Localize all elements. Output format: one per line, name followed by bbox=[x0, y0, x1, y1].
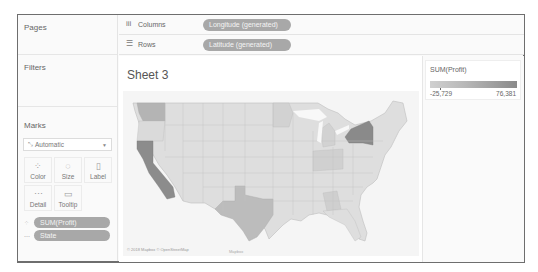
marks-card: Marks ⤡ Automatic ▼ ⁘ Color ◌ Size ▯ Lab… bbox=[18, 107, 117, 262]
mark-type-value: Automatic bbox=[35, 141, 64, 148]
detail-button[interactable]: ⋯ Detail bbox=[24, 185, 52, 211]
mapbox-logo: Mapbox bbox=[229, 249, 243, 254]
size-icon: ◌ bbox=[65, 161, 70, 171]
legend-max: 76,381 bbox=[496, 90, 516, 97]
map-attribution[interactable]: © 2018 Mapbox © OpenStreetMap bbox=[127, 247, 189, 252]
filters-title: Filters bbox=[24, 63, 46, 72]
legend-panel: SUM(Profit) -25,729 76,381 bbox=[423, 56, 524, 262]
rows-icon: ☰ bbox=[126, 39, 133, 48]
tooltip-button[interactable]: ▭ Tooltip bbox=[54, 185, 82, 211]
size-button[interactable]: ◌ Size bbox=[54, 157, 82, 183]
label-button[interactable]: ▯ Label bbox=[84, 157, 112, 183]
detail-label: Detail bbox=[30, 201, 47, 208]
rows-shelf[interactable]: ☰ Rows Latitude (generated) bbox=[119, 35, 524, 55]
columns-icon: iii bbox=[126, 19, 131, 28]
legend-min: -25,729 bbox=[430, 90, 452, 97]
marks-field-row: ⋯ State bbox=[22, 230, 110, 241]
tableau-workspace: Pages Filters Marks ⤡ Automatic ▼ ⁘ Colo… bbox=[17, 14, 525, 263]
color-icon: ⁘ bbox=[22, 219, 31, 226]
columns-shelf[interactable]: iii Columns Longitude (generated) bbox=[119, 15, 524, 35]
label-label: Label bbox=[90, 173, 106, 180]
label-icon: ▯ bbox=[96, 161, 101, 171]
rows-label: Rows bbox=[138, 41, 156, 48]
sheet-title[interactable]: Sheet 3 bbox=[127, 68, 168, 82]
color-icon: ⁘ bbox=[34, 161, 42, 171]
pages-card[interactable]: Pages bbox=[18, 15, 117, 55]
sum-profit-pill[interactable]: SUM(Profit) bbox=[34, 217, 110, 228]
chevron-down-icon: ▼ bbox=[102, 142, 107, 148]
size-label: Size bbox=[62, 173, 75, 180]
tooltip-label: Tooltip bbox=[59, 201, 78, 208]
longitude-pill[interactable]: Longitude (generated) bbox=[203, 19, 291, 31]
sheet-view: Sheet 3 bbox=[119, 56, 423, 262]
color-legend[interactable]: SUM(Profit) -25,729 76,381 bbox=[425, 60, 521, 100]
marks-field-row: ⁘ SUM(Profit) bbox=[22, 217, 110, 228]
mark-type-dropdown[interactable]: ⤡ Automatic ▼ bbox=[23, 138, 112, 151]
columns-label: Columns bbox=[138, 21, 166, 28]
us-map[interactable] bbox=[123, 91, 419, 256]
state-pill[interactable]: State bbox=[34, 230, 110, 241]
color-button[interactable]: ⁘ Color bbox=[24, 157, 52, 183]
detail-icon: ⋯ bbox=[22, 232, 31, 239]
pages-title: Pages bbox=[24, 23, 47, 32]
color-label: Color bbox=[30, 173, 46, 180]
latitude-pill[interactable]: Latitude (generated) bbox=[203, 39, 291, 51]
automatic-mark-icon: ⤡ bbox=[28, 141, 33, 148]
left-panel: Pages Filters Marks ⤡ Automatic ▼ ⁘ Colo… bbox=[18, 15, 118, 261]
detail-icon: ⋯ bbox=[34, 189, 43, 199]
choropleth-map[interactable] bbox=[123, 91, 419, 256]
filters-card[interactable]: Filters bbox=[18, 55, 117, 107]
tooltip-icon: ▭ bbox=[64, 189, 73, 199]
marks-title: Marks bbox=[24, 121, 46, 130]
legend-gradient bbox=[430, 81, 517, 88]
legend-title: SUM(Profit) bbox=[430, 66, 467, 73]
